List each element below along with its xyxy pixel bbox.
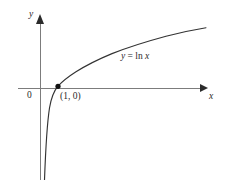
point-coordinate-label: (1, 0)	[60, 92, 81, 102]
point-marker-1-0	[55, 84, 60, 89]
equation-argument: x	[145, 51, 149, 61]
plot-canvas	[0, 0, 226, 180]
equation-annotation: y = ln x	[121, 52, 149, 62]
y-axis-label: y	[29, 10, 33, 20]
origin-label: 0	[27, 91, 32, 101]
x-axis-arrow-icon	[200, 84, 208, 92]
x-axis-label: x	[209, 92, 213, 102]
equation-function-name: ln	[135, 51, 142, 61]
y-axis-arrow-icon	[36, 14, 44, 24]
logarithm-graph-figure: y x 0 (1, 0) y = ln x	[0, 0, 226, 180]
equation-equals: =	[125, 51, 135, 61]
